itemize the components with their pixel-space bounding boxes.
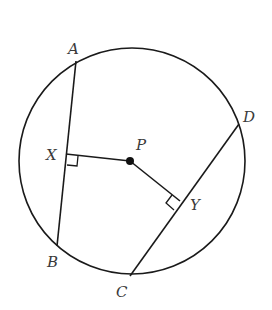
label-a: A	[66, 40, 79, 58]
label-c: C	[116, 283, 128, 301]
segment-px	[66, 154, 130, 161]
right-angle-marker-x	[67, 156, 78, 166]
segment-py	[130, 161, 180, 201]
center-point-p	[126, 157, 134, 165]
label-b: B	[46, 253, 58, 271]
label-p: P	[135, 136, 147, 154]
chord-cd	[130, 124, 239, 276]
label-y: Y	[190, 196, 202, 214]
label-x: X	[45, 146, 58, 164]
right-angle-marker-y	[166, 195, 174, 210]
circle-diagram: A B C D X Y P	[0, 0, 272, 310]
label-d: D	[242, 108, 255, 126]
